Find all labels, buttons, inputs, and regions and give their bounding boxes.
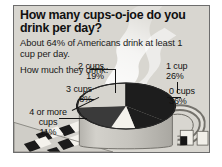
label-4-or-more-name: 4 or more [29, 107, 67, 117]
infographic-panel: How many cups-o-joe do you drink per day… [13, 5, 210, 153]
subtitle-text: About 64% of Americans drink at least 1 … [20, 37, 188, 59]
label-1-cup: 1 cup 26% [166, 62, 188, 82]
headline-block: How many cups-o-joe do you drink per day… [20, 9, 188, 75]
label-0-cups-name: 0 cups [169, 86, 195, 96]
label-0-cups-pct: 36% [169, 97, 195, 107]
leader-line-2-cups-v [115, 69, 116, 93]
label-1-cup-name: 1 cup [166, 61, 188, 71]
tablecloth-corner-icon [180, 130, 208, 145]
label-2-cups-name: 2 cups [78, 61, 104, 71]
label-3-cups-pct: 8% [36, 95, 92, 105]
label-0-cups: 0 cups 36% [169, 87, 195, 107]
label-3-cups: 3 cups 8% [36, 85, 92, 105]
label-1-cup-pct: 26% [166, 72, 188, 82]
label-4-or-more-pct: 11% [15, 128, 81, 138]
label-2-cups: 2 cups 19% [48, 62, 104, 82]
label-4-or-more-cups: 4 or more cups 11% [15, 108, 81, 137]
page-title: How many cups-o-joe do you drink per day… [20, 9, 188, 34]
label-3-cups-name: 3 cups [66, 84, 92, 94]
label-2-cups-pct: 19% [48, 72, 104, 82]
